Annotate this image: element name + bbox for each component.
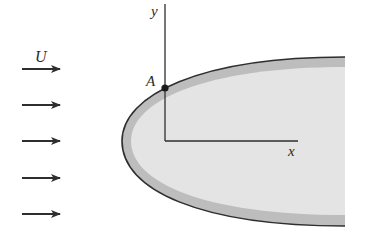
- freestream-label: U: [35, 48, 48, 65]
- point-a-marker: [161, 84, 168, 91]
- flow-diagram: U A y x: [0, 0, 366, 241]
- point-a-label: A: [145, 73, 156, 89]
- freestream-arrows: [22, 69, 60, 214]
- x-axis-label: x: [287, 143, 295, 159]
- y-axis-label: y: [149, 3, 158, 19]
